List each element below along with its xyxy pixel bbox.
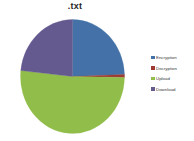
pie-svg <box>20 19 125 134</box>
chart-title: .txt <box>0 1 150 12</box>
pie-slice-upload <box>20 71 124 134</box>
pie-chart-figure: .txt EncryptionDecryptionUploadDownload <box>0 0 194 141</box>
legend-label: Upload <box>156 76 170 81</box>
pie-slice-encryption <box>73 20 125 77</box>
legend-swatch-icon <box>151 56 155 60</box>
legend-swatch-icon <box>151 66 155 70</box>
pie-plot-area <box>20 19 125 134</box>
legend-item-decryption: Decryption <box>151 64 194 73</box>
legend-label: Download <box>156 87 176 92</box>
legend-swatch-icon <box>151 77 155 81</box>
legend-label: Decryption <box>156 66 177 71</box>
chart-legend: EncryptionDecryptionUploadDownload <box>151 53 194 95</box>
pie-slice-download <box>21 19 73 76</box>
legend-item-encryption: Encryption <box>151 53 194 62</box>
legend-swatch-icon <box>151 87 155 91</box>
legend-item-download: Download <box>151 85 194 94</box>
legend-item-upload: Upload <box>151 74 194 83</box>
pie-slices-group <box>20 19 124 133</box>
legend-label: Encryption <box>156 55 177 60</box>
